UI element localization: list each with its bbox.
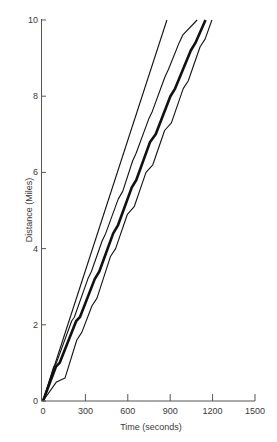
y-tick-label: 4 [33,244,38,254]
x-tick-label: 0 [40,406,45,416]
x-tick-label: 900 [163,406,178,416]
x-axis-title: Time (seconds) [120,422,182,432]
x-tick-label: 300 [78,406,93,416]
x-tick-label: 600 [120,406,135,416]
plot-lines [43,20,212,401]
y-tick-label: 10 [28,15,38,25]
y-tick-label: 8 [33,91,38,101]
x-tick-label: 1200 [203,406,223,416]
y-tick-label: 6 [33,167,38,177]
series-line [43,20,167,401]
x-tick-label: 1500 [245,406,265,416]
y-tick-label: 0 [33,396,38,406]
y-axis-title: Distance (Miles) [24,178,34,243]
y-tick-label: 2 [33,320,38,330]
series-line [43,20,206,401]
x-ticks: 030060090012001500 [40,394,265,416]
distance-time-chart: 0246810 030060090012001500 Time (seconds… [0,0,277,442]
